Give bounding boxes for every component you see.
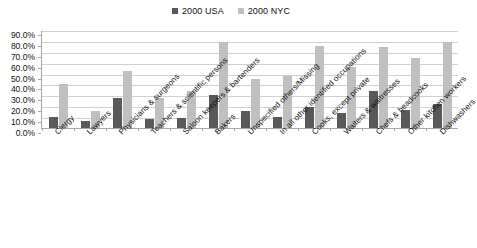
y-axis-tick-label: 70.0% bbox=[11, 53, 35, 62]
legend-entry-usa: 2000 USA bbox=[172, 6, 224, 16]
y-axis-tick-label: 50.0% bbox=[11, 75, 35, 84]
y-axis-tick-label: 0.0% bbox=[16, 129, 35, 138]
bar-usa bbox=[337, 113, 346, 128]
y-axis-tick-label: 40.0% bbox=[11, 85, 35, 94]
y-axis-tick-label: 60.0% bbox=[11, 64, 35, 73]
y-axis-tick-label: 30.0% bbox=[11, 96, 35, 105]
legend-label-usa: 2000 USA bbox=[182, 6, 224, 16]
legend-swatch-usa-icon bbox=[172, 8, 178, 14]
bar-usa bbox=[241, 111, 250, 128]
y-axis-labels: 90.0%80.0%70.0%60.0%50.0%40.0%30.0%20.0%… bbox=[0, 25, 38, 135]
x-axis-labels: ClergyLawyersPhysicians & surgeonsTeache… bbox=[41, 130, 458, 248]
legend-label-nyc: 2000 NYC bbox=[248, 6, 290, 16]
legend-swatch-nyc-icon bbox=[238, 8, 244, 14]
chart-legend: 2000 USA 2000 NYC bbox=[0, 6, 462, 16]
legend-entry-nyc: 2000 NYC bbox=[238, 6, 290, 16]
y-axis-tick-label: 90.0% bbox=[11, 31, 35, 40]
y-axis-tick-label: 80.0% bbox=[11, 42, 35, 51]
bar-usa bbox=[113, 98, 122, 128]
y-axis-tick-label: 10.0% bbox=[11, 118, 35, 127]
y-axis-tick-label: 20.0% bbox=[11, 107, 35, 116]
